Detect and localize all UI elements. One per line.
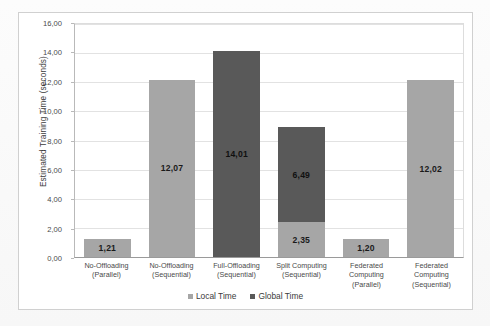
legend-swatch-icon [250,294,255,299]
x-axis-category-label-line: Full-Offloading [205,261,268,270]
y-axis-tick-mark [71,141,74,142]
bars-layer: 1,2112,0714,012,356,491,2012,02 [75,24,463,257]
plot-area: 1,2112,0714,012,356,491,2012,02 [74,23,464,258]
x-axis-category-label-line: (Parallel) [75,270,138,279]
x-axis-category-label-line: No-Offloading [75,261,138,270]
bar-segment[interactable]: 12,07 [149,80,196,257]
bar-value-label: 2,35 [293,235,311,245]
y-axis-tick-mark [71,258,74,259]
y-axis-tick-label: 2,00 [18,224,62,233]
bar-value-label: 14,01 [225,149,248,159]
y-axis-tick-label: 6,00 [18,165,62,174]
x-axis-category-label-line: No-Offloading [140,261,203,270]
x-axis-category-label-line: Federated [400,261,463,270]
bar-segment[interactable]: 14,01 [213,51,260,257]
bar-slot: 14,01 [204,24,269,257]
y-axis-tick-mark [71,82,74,83]
x-axis-category-label-line: (Sequential) [270,270,333,279]
legend-item[interactable]: Global Time [250,291,303,301]
bar[interactable]: 2,356,49 [278,127,325,257]
bar-segment[interactable]: 6,49 [278,127,325,222]
x-axis-category-label-line: Computing [400,270,463,279]
bar-value-label: 12,02 [419,164,442,174]
x-axis-category-label: Full-Offloading(Sequential) [204,261,269,289]
bar[interactable]: 1,21 [84,239,131,257]
bar-segment[interactable]: 1,21 [84,239,131,257]
x-axis-category-label: FederatedComputing(Parallel) [334,261,399,289]
legend-item-label: Global Time [258,291,303,301]
y-axis-tick-mark [71,52,74,53]
x-axis-category-label-line: (Sequential) [400,280,463,289]
y-axis-tick-label: 14,00 [18,48,62,57]
bar[interactable]: 12,02 [407,80,454,257]
y-axis-tick-label: 16,00 [18,19,62,28]
legend-item[interactable]: Local Time [188,291,237,301]
bar-segment[interactable]: 2,35 [278,222,325,257]
legend-swatch-icon [188,294,193,299]
bar-slot: 12,07 [140,24,205,257]
bar-value-label: 1,21 [99,243,117,253]
x-axis-category-label-line: (Sequential) [140,270,203,279]
bar[interactable]: 1,20 [343,239,390,257]
plot-wrapper: 1,2112,0714,012,356,491,2012,02 16,0014,… [74,23,464,258]
x-axis-category-label: FederatedComputing(Sequential) [399,261,464,289]
bar-value-label: 12,07 [161,163,184,173]
bar-segment[interactable]: 12,02 [407,80,454,257]
chart-container: Estimated Training Time (seconds) 1,2112… [18,12,473,310]
x-axis-category-label-line: Federated [335,261,398,270]
chart-legend: Local TimeGlobal Time [19,291,472,301]
x-axis-category-label: No-Offloading(Sequential) [139,261,204,289]
legend-item-label: Local Time [196,291,237,301]
y-axis-tick-mark [71,170,74,171]
bar-segment[interactable]: 1,20 [343,239,390,257]
x-axis-category-label-line: Computing [335,270,398,279]
y-axis-tick-mark [71,111,74,112]
y-axis-tick-mark [71,229,74,230]
bar-value-label: 1,20 [357,243,375,253]
y-axis-tick-mark [71,23,74,24]
y-axis-tick-label: 8,00 [18,136,62,145]
x-axis-category-label-line: Split Computing [270,261,333,270]
x-axis-category-label-line: (Sequential) [205,270,268,279]
bar-slot: 12,02 [398,24,463,257]
bar[interactable]: 12,07 [149,80,196,257]
x-axis-category-labels: No-Offloading(Parallel)No-Offloading(Seq… [74,261,464,289]
x-axis-category-label: No-Offloading(Parallel) [74,261,139,289]
bar-value-label: 6,49 [293,170,311,180]
y-axis-tick-label: 4,00 [18,195,62,204]
x-axis-category-label: Split Computing(Sequential) [269,261,334,289]
y-axis-tick-label: 0,00 [18,254,62,263]
y-axis-tick-label: 10,00 [18,107,62,116]
bar-slot: 1,21 [75,24,140,257]
y-axis-tick-mark [71,199,74,200]
bar-slot: 2,356,49 [269,24,334,257]
bar[interactable]: 14,01 [213,51,260,257]
bar-slot: 1,20 [334,24,399,257]
x-axis-category-label-line: (Parallel) [335,280,398,289]
y-axis-tick-label: 12,00 [18,77,62,86]
